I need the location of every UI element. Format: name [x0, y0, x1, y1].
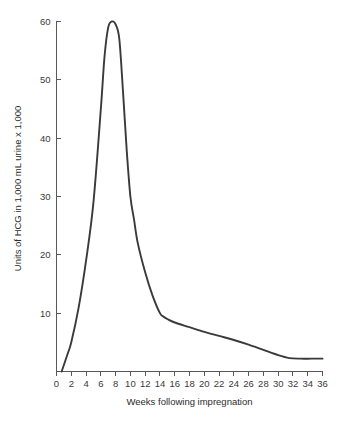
- x-tick-label: 18: [184, 378, 195, 389]
- x-tick-label: 20: [199, 378, 210, 389]
- x-tick-label: 36: [317, 378, 328, 389]
- x-tick-label: 30: [273, 378, 284, 389]
- x-tick-label: 6: [98, 378, 103, 389]
- x-tick-label: 2: [69, 378, 74, 389]
- x-tick-label: 24: [229, 378, 240, 389]
- data-series-line: [62, 21, 323, 371]
- x-tick-label: 10: [125, 378, 136, 389]
- x-tick-label: 4: [83, 378, 88, 389]
- x-tick-label: 0: [54, 378, 59, 389]
- x-tick-label: 8: [113, 378, 118, 389]
- x-tick-label: 16: [169, 378, 180, 389]
- y-tick-label: 10: [40, 308, 51, 319]
- x-tick-label: 14: [155, 378, 166, 389]
- y-tick-label: 40: [40, 133, 51, 144]
- x-tick-label: 32: [288, 378, 299, 389]
- y-tick-label: 30: [40, 191, 51, 202]
- x-tick-label: 26: [243, 378, 254, 389]
- chart-figure: 1020304050600246810121416182022242628303…: [0, 0, 340, 423]
- x-tick-label: 22: [214, 378, 225, 389]
- x-tick-label: 12: [140, 378, 151, 389]
- hcg-line-chart: 1020304050600246810121416182022242628303…: [0, 0, 340, 423]
- y-tick-label: 60: [40, 16, 51, 27]
- x-axis-title: Weeks following impregnation: [126, 396, 252, 407]
- y-tick-label: 50: [40, 74, 51, 85]
- x-tick-label: 34: [302, 378, 313, 389]
- y-axis-title: Units of HCG in 1,000 mL urine x 1,000: [12, 106, 23, 271]
- x-tick-label: 28: [258, 378, 269, 389]
- y-tick-label: 20: [40, 249, 51, 260]
